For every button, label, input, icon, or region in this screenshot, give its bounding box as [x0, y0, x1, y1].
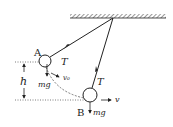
pendulum-diagram: h A T mg v₀ T v B mg: [0, 0, 173, 127]
velocity-arrow-a: [51, 73, 59, 77]
velocity-label-a: v₀: [63, 74, 70, 82]
tension-label-a: T: [61, 56, 69, 67]
ball-b: [83, 88, 97, 102]
height-label: h: [20, 75, 27, 88]
ceiling: [70, 14, 166, 18]
label-a: A: [33, 47, 42, 58]
label-b: B: [77, 107, 84, 118]
velocity-label-b: v: [115, 95, 120, 104]
swing-path: [46, 67, 84, 98]
weight-label-a: mg: [38, 80, 51, 89]
weight-label-b: mg: [93, 108, 106, 117]
tension-arrow-b: [95, 66, 98, 72]
tension-label-b: T: [97, 76, 105, 87]
